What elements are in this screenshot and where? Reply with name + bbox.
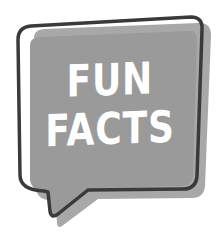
- title-line-2: FACTS: [0, 100, 222, 158]
- title-text-facts: FACTS: [45, 102, 175, 157]
- title-text-fun: FUN: [67, 53, 154, 106]
- fun-facts-speech-bubble: FUN FACTS: [0, 0, 224, 245]
